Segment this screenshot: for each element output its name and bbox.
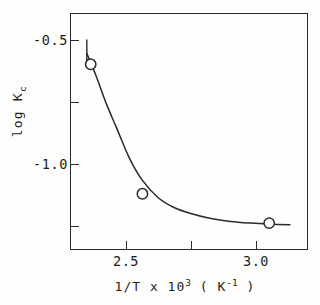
x-axis-title-part-a: 1/T x 10: [115, 279, 186, 294]
x-axis-title-exponent-minus-1: -1: [226, 277, 237, 288]
figure-canvas: -0.5 -1.0 2.5 3.0 log Kc 1/T x 103 ( K-1…: [0, 0, 320, 305]
x-axis-tick-2: [256, 241, 257, 250]
x-axis-tick-label-0: 2.5: [96, 254, 156, 269]
y-axis-title: log Kc: [10, 64, 28, 160]
x-axis-tick-1: [191, 241, 192, 250]
y-axis-tick-2: [70, 164, 79, 165]
y-axis-tick-1: [70, 102, 79, 103]
x-axis-title: 1/T x 103 ( K-1 ): [60, 277, 310, 294]
y-axis-title-subscript: c: [17, 86, 28, 92]
y-axis-tick-3: [70, 226, 79, 227]
x-axis-title-part-b: ( K: [191, 279, 226, 294]
y-axis-title-main: log K: [10, 92, 25, 137]
x-axis-tick-0: [126, 241, 127, 250]
plot-frame: [70, 13, 308, 250]
y-axis-tick-0: [70, 40, 79, 41]
x-axis-title-part-c: ): [238, 279, 256, 294]
y-axis-tick-label-0: -0.5: [10, 33, 68, 47]
x-axis-tick-label-2: 3.0: [226, 254, 286, 269]
